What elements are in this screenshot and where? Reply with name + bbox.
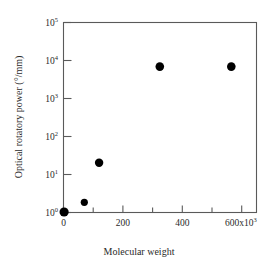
x-axis-title: Molecular weight [104, 246, 175, 257]
x-tick-label-200: 200 [116, 218, 131, 228]
y-tick-label-exponent: 0 [55, 206, 58, 213]
y-tick-label-mantissa: 10 [45, 94, 55, 104]
data-points [60, 62, 236, 216]
y-axis-tick-labels: 105 104 103 102 101 100 [45, 16, 59, 218]
x-tick-label-value: 600 [225, 218, 240, 228]
svg-text:100: 100 [45, 206, 58, 218]
chart-figure: 105 104 103 102 101 100 [0, 0, 275, 270]
y-tick-label-exponent: 1 [55, 168, 58, 175]
svg-text:104: 104 [45, 54, 59, 66]
y-tick-label-mantissa: 10 [45, 132, 55, 142]
svg-text:103: 103 [45, 92, 58, 104]
svg-text:102: 102 [45, 130, 58, 142]
y-tick-label-exponent: 3 [55, 92, 58, 99]
x-tick-label-400: 400 [175, 218, 190, 228]
svg-text:105: 105 [45, 16, 58, 28]
y-tick-label-mantissa: 10 [45, 18, 55, 28]
x-tick-label-exponent: 3 [254, 216, 257, 223]
scatter-plot: 105 104 103 102 101 100 [0, 0, 275, 270]
y-tick-label-mantissa: 10 [45, 56, 55, 66]
data-point [156, 62, 165, 71]
y-tick-label-mantissa: 10 [45, 208, 55, 218]
data-point [227, 62, 236, 71]
x-axis-tick-labels: 0 200 400 600x103 [61, 216, 257, 228]
data-point [95, 159, 103, 167]
y-axis-ticks [64, 23, 72, 213]
y-tick-label-exponent: 5 [55, 16, 58, 23]
x-tick-label-suffix: x10 [239, 218, 254, 228]
x-tick-label-0: 0 [61, 218, 66, 228]
x-axis-ticks [64, 206, 242, 213]
plot-frame [64, 23, 257, 213]
x-tick-label-600: 600x103 [225, 216, 257, 228]
svg-text:101: 101 [45, 168, 58, 180]
data-point [81, 199, 88, 206]
y-tick-label-exponent: 4 [55, 54, 59, 61]
y-tick-label-exponent: 2 [55, 130, 58, 137]
y-tick-label-mantissa: 10 [45, 170, 55, 180]
y-axis-title: Optical rotatory power (°/mm) [13, 56, 25, 179]
data-point [60, 207, 69, 216]
